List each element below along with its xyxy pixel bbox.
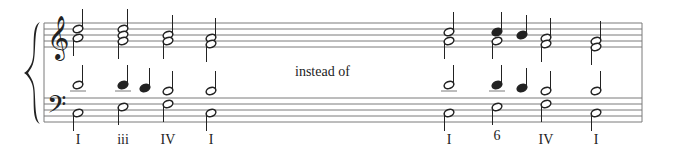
treble-clef-icon: 𝄞 [47,15,69,61]
brace-icon [24,22,40,124]
chord-label: I [447,132,452,148]
chord-label: I [76,132,81,148]
chord-label: I [209,132,214,148]
chord-label: iii [117,132,129,148]
chord-label: I [594,132,599,148]
chord-label: IV [539,132,554,148]
chord-label: 6 [494,128,501,144]
bass-clef-icon: 𝄢 [47,90,66,125]
instead-of-annotation: instead of [295,64,350,80]
chord-label: IV [161,132,176,148]
